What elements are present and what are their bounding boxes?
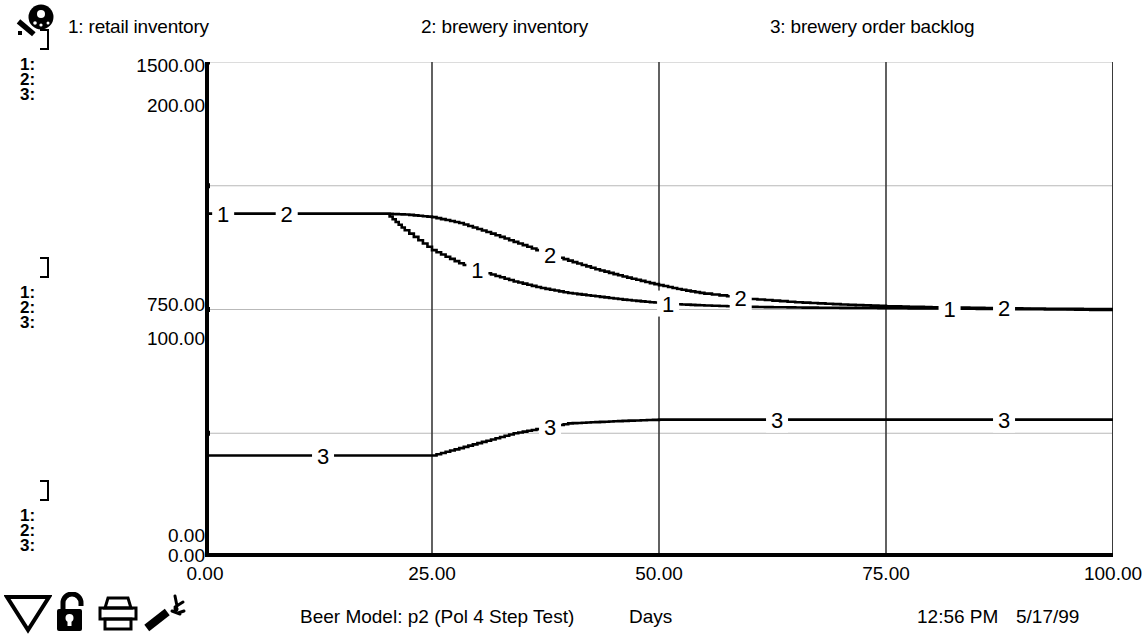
series-marker-label-3: 3 <box>998 408 1010 433</box>
legend-entry-brewery-inventory: 2: brewery inventory <box>421 16 588 38</box>
y-axis-label-mid-primary: 750.00 <box>85 294 205 316</box>
key-icon[interactable] <box>8 3 60 43</box>
scale-row-3-label: 3: <box>20 313 35 332</box>
magic-wand-icon[interactable] <box>142 592 188 634</box>
printer-icon[interactable] <box>96 592 140 634</box>
y-axis-label-mid-secondary: 100.00 <box>85 328 205 350</box>
series-marker-label-2: 2 <box>281 202 293 227</box>
series-marker-label-1: 1 <box>943 297 955 322</box>
status-time: 12:56 PM <box>917 606 998 628</box>
scale-row-3: 3: <box>20 315 66 330</box>
series-marker-label-2: 2 <box>544 243 556 268</box>
x-axis-tick-label: 100.00 <box>1068 563 1146 585</box>
scale-stack-top: 1: 2: 3: <box>20 57 66 102</box>
status-date: 5/17/99 <box>1016 606 1079 628</box>
legend-bar: 1: retail inventory 2: brewery inventory… <box>0 0 1129 48</box>
status-model-title: Beer Model: p2 (Pol 4 Step Test) <box>300 606 574 628</box>
chart-series-markers: 111122223333 <box>212 201 1015 469</box>
y-axis-label-top-secondary: 200.00 <box>85 95 205 117</box>
unlock-padlock-icon[interactable] <box>54 592 90 634</box>
scale-stack-middle: 1: 2: 3: <box>20 285 66 330</box>
status-x-axis-title: Days <box>629 606 672 628</box>
series-marker-label-3: 3 <box>771 408 783 433</box>
scale-bracket-icon <box>40 29 49 50</box>
x-axis-tick-label: 50.00 <box>614 563 704 585</box>
scale-bracket-icon <box>40 257 49 278</box>
y-axis-label-bottom-primary: 0.00 <box>85 525 205 547</box>
scale-row-3: 3: <box>20 538 66 553</box>
legend-entry-brewery-order-backlog: 3: brewery order backlog <box>770 16 974 38</box>
series-marker-label-1: 1 <box>217 202 229 227</box>
x-axis-tick-label: 25.00 <box>387 563 477 585</box>
scale-row-3: 3: <box>20 87 66 102</box>
series-marker-label-2: 2 <box>998 296 1010 321</box>
x-axis-tick-label: 75.00 <box>841 563 931 585</box>
y-axis-label-top-primary: 1500.00 <box>85 55 205 77</box>
scale-row-3-label: 3: <box>20 536 35 555</box>
scale-stack-bottom: 1: 2: 3: <box>20 508 66 553</box>
x-axis-tick-label: 0.00 <box>160 563 250 585</box>
series-marker-label-1: 1 <box>662 292 674 317</box>
series-marker-label-3: 3 <box>317 444 329 469</box>
scale-bracket-icon <box>40 480 49 501</box>
chart-plot-area[interactable]: 111122223333 <box>205 62 1113 557</box>
series-marker-label-1: 1 <box>471 258 483 283</box>
scale-row-3-label: 3: <box>20 85 35 104</box>
series-marker-label-3: 3 <box>544 415 556 440</box>
series-marker-label-2: 2 <box>735 286 747 311</box>
legend-entry-retail-inventory: 1: retail inventory <box>68 16 209 38</box>
bottom-toolbar <box>4 592 189 637</box>
pointer-triangle-icon[interactable] <box>4 592 52 634</box>
